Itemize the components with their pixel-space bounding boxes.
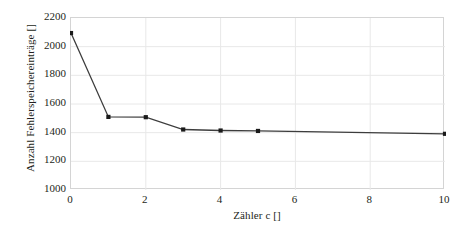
x-tick-label: 4	[205, 193, 235, 205]
horizontal-gridlines	[71, 47, 445, 162]
y-tick-label: 1800	[34, 68, 66, 79]
x-tick-label: 2	[130, 193, 160, 205]
y-tick-label: 2000	[34, 40, 66, 51]
data-point-marker	[256, 129, 260, 133]
chart-figure: Anzahl Fehlerspeichereinträge [] 1000120…	[0, 0, 469, 240]
y-tick-label: 1600	[34, 97, 66, 108]
x-axis-tick-labels: 0246810	[70, 193, 444, 207]
data-point-marker	[219, 128, 223, 132]
data-point-marker	[70, 31, 73, 35]
x-axis-title: Zähler c []	[70, 209, 444, 222]
data-point-marker	[181, 127, 185, 131]
x-tick-label: 8	[354, 193, 384, 205]
y-axis-tick-labels: 1000120014001600180020002200	[34, 17, 66, 189]
y-tick-label: 1200	[34, 154, 66, 165]
data-point-marker	[443, 132, 446, 136]
x-tick-label: 0	[55, 193, 85, 205]
data-line	[71, 33, 445, 134]
y-tick-label: 2200	[34, 11, 66, 22]
x-tick-label: 10	[429, 193, 459, 205]
data-point-marker	[106, 115, 110, 119]
plot-area	[70, 17, 444, 189]
y-tick-label: 1400	[34, 126, 66, 137]
series-canvas	[70, 17, 446, 191]
data-point-marker	[144, 115, 148, 119]
x-tick-label: 6	[279, 193, 309, 205]
